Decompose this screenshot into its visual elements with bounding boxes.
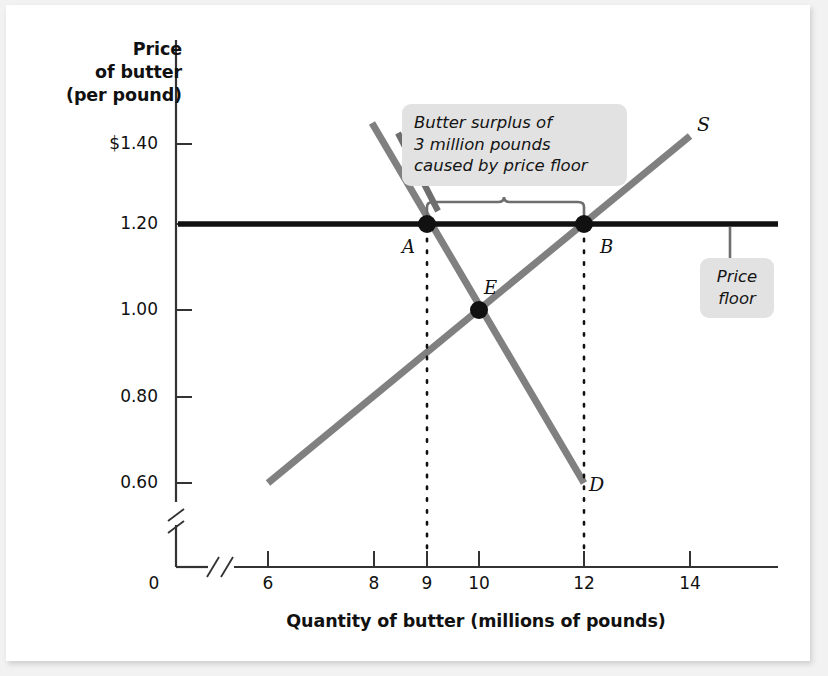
- point-label-E: E: [484, 277, 497, 298]
- x-tick-label-10: 10: [449, 573, 509, 593]
- point-B: [575, 215, 593, 233]
- demand-curve-label: D: [589, 473, 604, 495]
- y-tick-marks: [176, 144, 192, 483]
- y-tick-label-120: 1.20: [48, 213, 158, 233]
- point-A: [418, 215, 436, 233]
- supply-curve-label: S: [697, 113, 710, 135]
- x-axis-break-icon: [207, 557, 233, 577]
- origin-label: 0: [124, 573, 184, 593]
- point-E: [470, 301, 488, 319]
- y-tick-label-080: 0.80: [48, 386, 158, 406]
- chart-plot-area: Price of butter (per pound) Quantity of …: [6, 5, 810, 661]
- y-tick-label-100: 1.00: [48, 299, 158, 319]
- point-label-B: B: [600, 236, 613, 257]
- y-tick-label-060: 0.60: [48, 472, 158, 492]
- surplus-annotation-callout: Butter surplus of 3 million pounds cause…: [402, 104, 627, 186]
- x-tick-label-6: 6: [238, 573, 298, 593]
- surplus-brace: [427, 197, 584, 221]
- x-axis-title: Quantity of butter (millions of pounds): [186, 611, 766, 631]
- x-tick-marks: [268, 551, 690, 567]
- point-label-A: A: [402, 236, 415, 257]
- x-tick-label-9: 9: [397, 573, 457, 593]
- x-tick-label-8: 8: [344, 573, 404, 593]
- x-tick-label-14: 14: [660, 573, 720, 593]
- y-tick-label-140: $1.40: [48, 133, 158, 153]
- figure-card: Price of butter (per pound) Quantity of …: [6, 5, 810, 661]
- x-tick-label-12: 12: [554, 573, 614, 593]
- y-axis-title: Price of butter (per pound): [26, 38, 182, 107]
- price-floor-annotation-callout: Price floor: [700, 258, 774, 318]
